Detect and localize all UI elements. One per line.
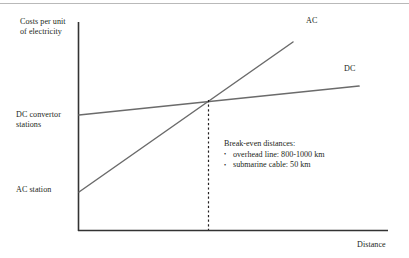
series-line-dc: [79, 86, 359, 115]
series-label-ac: AC: [306, 16, 317, 26]
chart-figure: Costs per unit of electricity DC convert…: [0, 0, 409, 258]
annotation-item-overhead-line: overhead line: 800-1000 km: [224, 150, 324, 161]
break-even-annotation: Break-even distances: overhead line: 800…: [224, 139, 324, 171]
y-axis-title-line2: of electricity: [20, 27, 62, 36]
y-axis-title-line1: Costs per unit: [20, 17, 66, 26]
annotation-item-submarine-cable: submarine cable: 50 km: [224, 160, 324, 171]
annotation-list: overhead line: 800-1000 km submarine cab…: [224, 150, 324, 171]
y-axis-tick-dc-line2: stations: [16, 120, 41, 129]
series-label-dc: DC: [344, 64, 355, 74]
y-axis-tick-dc-convertor-stations: DC convertor stations: [16, 110, 61, 130]
y-axis-tick-ac-station: AC station: [16, 185, 51, 195]
x-axis-title: Distance: [357, 240, 386, 250]
annotation-title: Break-even distances:: [224, 139, 324, 150]
y-axis-title: Costs per unit of electricity: [20, 17, 66, 37]
chart-plot-area: [0, 0, 409, 258]
y-axis-tick-dc-line1: DC convertor: [16, 110, 61, 119]
